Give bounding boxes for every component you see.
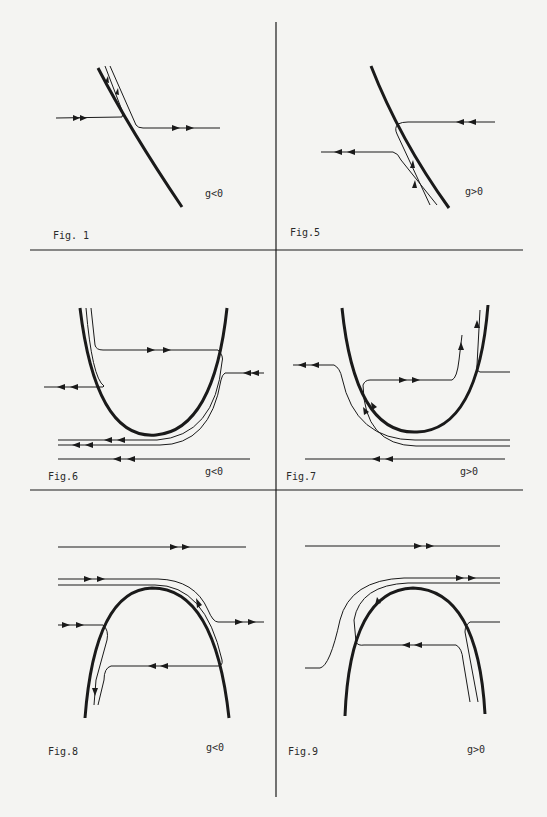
figure-6-diagram [44,308,264,462]
trajectory-path [293,365,510,440]
trajectory-path [354,583,500,702]
arrow-icon [243,370,259,376]
diagram-page: Fig. 1 g<0 Fig.5 g>0 Fig.6 g<0 Fig.7 g>0… [0,0,547,817]
arrow-icon [458,342,464,350]
figure-9-caption: Fig.9 [288,746,318,757]
figure-8-condition: g<0 [206,742,224,753]
diagram-canvas [0,0,547,817]
figure-6-condition: g<0 [205,466,223,477]
boundary-curve [371,66,449,208]
arrow-icon [73,115,87,121]
boundary-curve [80,308,227,435]
arrow-icon [412,180,417,188]
trajectory-path [321,152,437,205]
figure-8-diagram [58,544,264,718]
figure-6-caption: Fig.6 [48,471,78,482]
boundary-curve [98,68,182,207]
figure-7-diagram [293,305,510,462]
figure-9-condition: g>0 [467,744,485,755]
trajectory-path [477,310,510,372]
arrow-icon [115,88,119,95]
figure-1-diagram [56,66,220,207]
figure-9-diagram [305,543,500,716]
boundary-curve [345,588,485,716]
trajectory-path [363,385,510,446]
figure-8-caption: Fig.8 [48,746,78,757]
trajectory-path [305,578,500,668]
arrow-icon [196,598,202,608]
figure-7-caption: Fig.7 [286,471,316,482]
trajectory-path [398,122,495,124]
figure-5-caption: Fig.5 [290,227,320,238]
figure-1-condition: g<0 [205,188,223,199]
arrow-icon [371,402,377,410]
figure-5-condition: g>0 [465,186,483,197]
arrow-icon [92,688,98,696]
figure-1-caption: Fig. 1 [53,230,89,241]
figure-7-condition: g>0 [460,466,478,477]
